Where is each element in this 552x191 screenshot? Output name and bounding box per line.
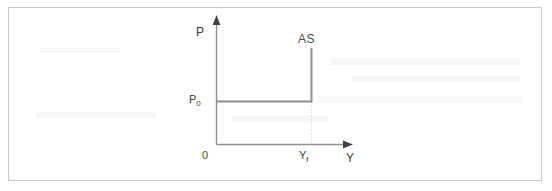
- full-employment-output-tick-label: Yf: [299, 150, 309, 164]
- price-level-tick-sub: 0: [196, 99, 200, 108]
- output-axis-label: Y: [346, 152, 354, 164]
- figure-root: P Y 0 P0 Yf AS: [0, 0, 552, 191]
- aggregate-supply-plot: [0, 0, 552, 191]
- price-axis-label: P: [196, 26, 204, 38]
- as-curve-label: AS: [298, 33, 315, 45]
- arrow-right-icon: [343, 141, 353, 149]
- arrow-up-icon: [213, 15, 221, 25]
- origin-label: 0: [202, 150, 208, 161]
- price-level-tick-label: P0: [189, 94, 201, 108]
- output-tick-sub: f: [306, 155, 308, 164]
